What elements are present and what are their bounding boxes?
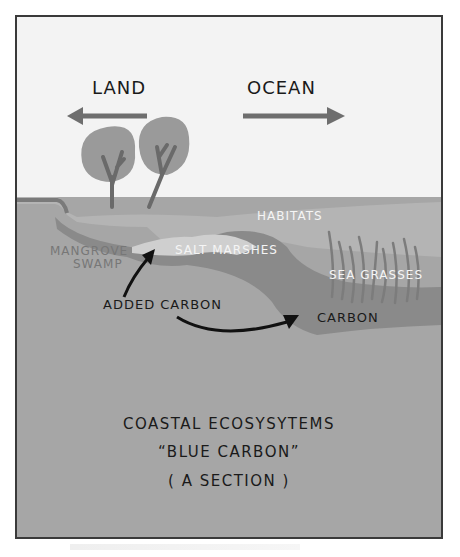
land-label: LAND [92,77,146,98]
sea-grasses-label: SEA GRASSES [329,268,423,282]
carbon-label: CARBON [317,310,379,325]
ocean-label: OCEAN [247,77,316,98]
salt-marshes-label: SALT MARSHES [175,243,278,257]
ocean-arrow-icon [243,107,345,125]
added-carbon-label: ADDED CARBON [103,297,222,312]
land-arrow-icon [67,107,147,125]
diagram-frame: LAND OCEAN HABITATS MANGROVE SWAMP SALT … [15,15,443,539]
swamp-label: SWAMP [73,257,123,271]
mangrove-label: MANGROVE [50,244,128,258]
caption-section: ( A SECTION ) [17,472,441,490]
caption-subtitle: “BLUE CARBON” [17,443,441,461]
bleed-through-text [70,544,300,550]
caption-title: COASTAL ECOSYSYTEMS [17,415,441,433]
habitats-label: HABITATS [257,209,323,223]
